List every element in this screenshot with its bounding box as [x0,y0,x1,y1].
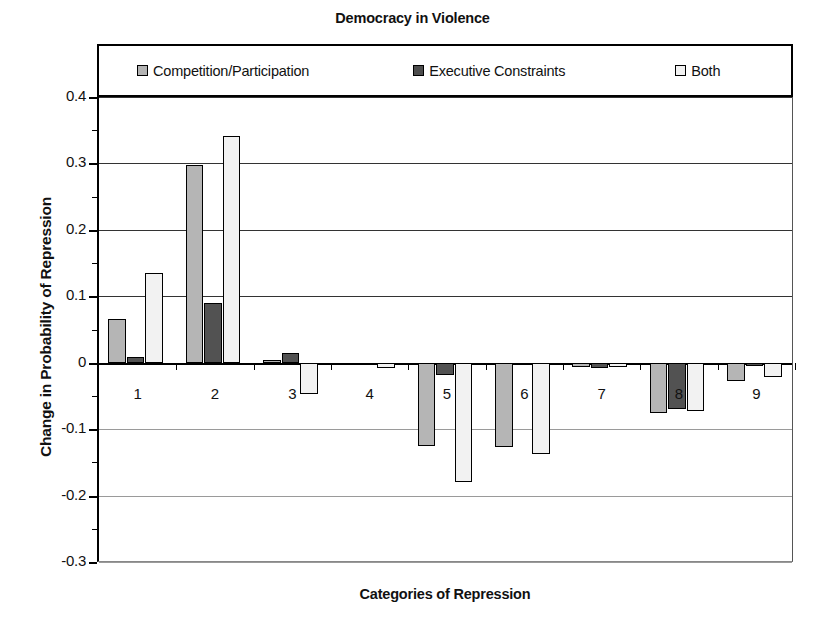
x-axis-category-label: 8 [667,385,691,402]
gridline [99,429,792,430]
bar [591,363,609,368]
y-axis-tick [89,562,97,564]
gridline [99,562,792,563]
legend-item-executive-constraints: Executive Constraints [413,63,565,79]
bar [340,363,358,365]
bar [650,363,668,413]
y-axis-tick [89,429,97,431]
gridline [99,496,792,497]
bar [263,360,281,363]
bar [204,303,222,363]
plot-area: 123456789 [97,97,793,562]
x-axis-tick [408,363,409,370]
chart-legend: Competition/Participation Executive Cons… [97,44,793,97]
y-axis-tick-label: -0.1 [14,419,86,436]
legend-item-both: Both [675,63,720,79]
bar [727,363,745,381]
bar [746,363,764,366]
x-axis-tick [254,363,255,370]
x-axis-category-label: 2 [203,385,227,402]
legend-swatch-icon [137,65,148,76]
bar [127,357,145,362]
bar [572,363,590,367]
legend-item-competition-participation: Competition/Participation [137,63,309,79]
y-axis-tick-label: 0 [14,353,86,370]
bar [495,363,513,447]
x-axis-title: Categories of Repression [97,586,793,602]
y-axis-tick [89,496,97,498]
y-axis-tick [89,230,97,232]
y-axis-tick [89,163,97,165]
bar [108,319,126,363]
x-axis-category-label: 6 [512,385,536,402]
bar [436,363,454,376]
y-axis-tick-label: 0.3 [14,153,86,170]
x-axis-tick [176,363,177,370]
chart-figure: Democracy in Violence Competition/Partic… [0,0,825,625]
x-axis-tick [486,363,487,370]
bar [186,165,204,363]
bar [532,363,550,454]
chart-title: Democracy in Violence [0,10,825,26]
x-axis-tick [718,363,719,370]
y-axis-tick [89,363,97,365]
y-axis-tick-label: 0.2 [14,220,86,237]
x-axis-category-label: 3 [280,385,304,402]
x-axis-tick [640,363,641,370]
x-axis-category-label: 5 [435,385,459,402]
y-axis-tick [89,296,97,298]
y-axis-tick-label: -0.3 [14,552,86,569]
bar [514,363,532,366]
bar [223,136,241,363]
x-axis-category-label: 9 [744,385,768,402]
bar [282,353,300,362]
legend-label: Both [691,63,720,79]
x-axis-tick [331,363,332,370]
legend-label: Competition/Participation [153,63,309,79]
bar [145,273,163,363]
x-axis-tick [795,363,796,370]
bar [455,363,473,483]
x-axis-category-label: 7 [590,385,614,402]
y-axis-tick-label: 0.1 [14,286,86,303]
bar [377,363,395,368]
legend-swatch-icon [413,65,424,76]
legend-label: Executive Constraints [429,63,565,79]
x-axis-tick [563,363,564,370]
y-axis-tick [89,97,97,99]
bar [764,363,782,378]
x-axis-category-label: 4 [358,385,382,402]
x-axis-category-label: 1 [126,385,150,402]
bar [609,363,627,368]
legend-swatch-icon [675,65,686,76]
y-axis-title: Change in Probability of Repression [37,117,55,537]
plot-inner: 123456789 [99,97,792,561]
gridline [99,97,792,98]
bar [418,363,436,446]
y-axis-tick-label: -0.2 [14,486,86,503]
bar [359,363,377,365]
y-axis-tick-label: 0.4 [14,87,86,104]
